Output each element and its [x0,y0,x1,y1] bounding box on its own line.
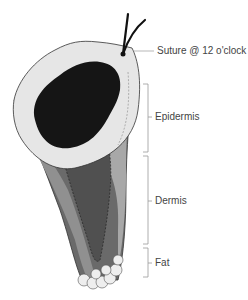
dermis-label: Dermis [155,195,187,207]
suture-label: Suture @ 12 o'clock [157,45,246,57]
dermis-bracket [143,156,152,244]
suture-icon [123,14,145,54]
fat-label: Fat [155,257,169,269]
epidermis-bracket [143,84,152,152]
fat-bracket [143,248,152,277]
epidermis-label: Epidermis [155,111,199,123]
